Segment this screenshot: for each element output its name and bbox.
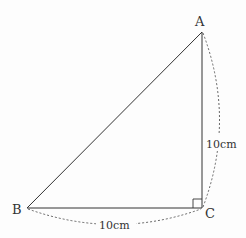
vertex-label-a: A: [194, 14, 205, 29]
triangle-svg: A B C 10cm 10cm: [0, 0, 246, 238]
vertex-label-b: B: [12, 202, 22, 217]
triangle-diagram: A B C 10cm 10cm: [0, 0, 246, 238]
vertex-label-c: C: [205, 206, 215, 221]
right-angle-marker: [193, 199, 202, 208]
measure-label-bc: 10cm: [99, 219, 130, 232]
measure-label-ac: 10cm: [206, 138, 237, 151]
side-ab: [27, 32, 202, 208]
measure-arc-ac: [203, 33, 220, 207]
